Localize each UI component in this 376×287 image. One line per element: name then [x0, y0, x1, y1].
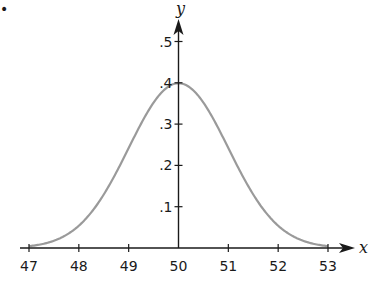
y-axis-label: y — [175, 0, 186, 18]
x-tick-label: 53 — [319, 258, 337, 274]
x-tick-label: 52 — [269, 258, 287, 274]
list-marker: • — [0, 1, 8, 17]
x-axis-label: x — [359, 238, 368, 257]
x-tick-label: 51 — [219, 258, 237, 274]
y-tick-label: .4 — [159, 75, 172, 91]
x-tick-label: 50 — [170, 258, 188, 274]
y-tick-label: .1 — [159, 199, 172, 215]
x-tick-label: 49 — [120, 258, 138, 274]
axes — [20, 19, 355, 253]
y-tick-label: .5 — [159, 34, 172, 50]
y-tick-label: .2 — [159, 157, 172, 173]
x-tick-label: 48 — [70, 258, 88, 274]
normal-distribution-chart: • 47484950515253 .1.2.3.4.5 y x — [0, 0, 376, 287]
x-tick-label: 47 — [20, 258, 38, 274]
y-tick-label: .3 — [159, 116, 172, 132]
